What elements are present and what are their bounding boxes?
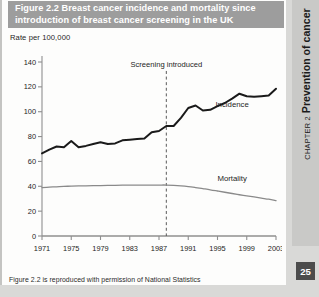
series-line-incidence [42, 89, 276, 154]
chapter-title: Prevention of cancer [300, 8, 312, 113]
y-axis-tick-label: 80 [28, 132, 36, 141]
y-axis-tick-label: 100 [24, 107, 36, 116]
y-axis-tick-label: 40 [28, 182, 36, 191]
series-line-mortality [42, 185, 276, 201]
x-axis-tick-label: 1995 [209, 244, 225, 253]
x-axis-tick-label: 1991 [180, 244, 196, 253]
y-axis-tick-label: 20 [28, 207, 36, 216]
chapter-running-head: CHAPTER 2 Prevention of cancer [292, 0, 319, 246]
line-chart: 0204060801001201401971197519791983198719… [8, 44, 282, 264]
x-axis-tick-label: 1987 [151, 244, 167, 253]
x-axis-tick-label: 1971 [34, 244, 50, 253]
y-axis-tick-label: 140 [24, 58, 36, 67]
x-axis-tick-label: 1979 [92, 244, 108, 253]
y-axis-tick-label: 0 [32, 232, 36, 241]
figure-card: Figure 2.2 Breast cancer incidence and m… [2, 0, 286, 285]
x-axis-tick-label: 1999 [239, 244, 255, 253]
screening-introduced-annotation: Screening introduced [130, 60, 202, 69]
page-number-badge: 25 [296, 262, 315, 280]
x-axis-tick-label: 2003 [268, 244, 282, 253]
y-axis-tick-label: 60 [28, 157, 36, 166]
figure-title-line-2: introduction of breast cancer screening … [15, 15, 277, 27]
series-label-mortality: Mortality [217, 174, 247, 183]
figure-title-bar: Figure 2.2 Breast cancer incidence and m… [8, 1, 284, 28]
y-axis-tick-label: 120 [24, 82, 36, 91]
figure-title-line-1: Figure 2.2 Breast cancer incidence and m… [15, 3, 277, 15]
chart-plot-area: 0204060801001201401971197519791983198719… [8, 44, 282, 264]
series-label-incidence: Incidence [215, 100, 248, 109]
figure-source-note: Figure 2.2 is reproduced with permission… [9, 276, 201, 283]
page-canvas: Figure 2.2 Breast cancer incidence and m… [0, 0, 319, 297]
x-axis-tick-label: 1983 [122, 244, 138, 253]
y-axis-unit-label: Rate per 100,000 [10, 33, 70, 42]
x-axis-tick-label: 1975 [63, 244, 79, 253]
chapter-kicker: CHAPTER 2 [303, 116, 312, 160]
